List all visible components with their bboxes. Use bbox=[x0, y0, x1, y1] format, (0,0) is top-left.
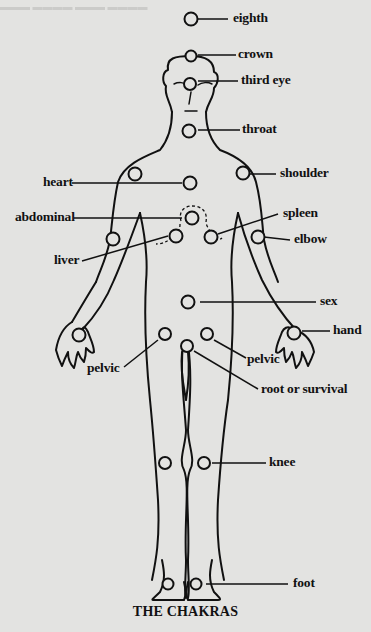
label-knee: knee bbox=[269, 454, 295, 470]
chakra-knee-left-circle bbox=[159, 457, 171, 469]
label-foot: foot bbox=[293, 575, 315, 591]
chakra-abdominal-circle bbox=[186, 212, 199, 225]
chakra-liver-circle bbox=[170, 230, 183, 243]
chakra-throat-circle bbox=[183, 125, 196, 138]
chakra-foot-circle bbox=[191, 579, 202, 590]
right-waist bbox=[217, 213, 238, 580]
left-waist bbox=[140, 213, 159, 580]
chakra-root-circle bbox=[181, 340, 193, 352]
chakra-knee-circle bbox=[198, 457, 210, 469]
leader-pelvic-left bbox=[124, 340, 158, 367]
chakra-pelvic-right-circle bbox=[201, 328, 213, 340]
figure-caption: THE CHAKRAS bbox=[0, 604, 371, 620]
label-pelvic-left: pelvic bbox=[87, 360, 120, 376]
leader-liver bbox=[82, 236, 168, 261]
chakra-spleen-circle bbox=[205, 231, 218, 244]
label-pelvic-right: pelvic bbox=[247, 351, 280, 367]
label-crown: crown bbox=[238, 46, 273, 62]
label-throat: throat bbox=[242, 121, 277, 137]
leader-pelvic-right bbox=[214, 340, 246, 358]
chakra-heart-left-circle bbox=[129, 168, 142, 181]
chakra-body-diagram bbox=[0, 0, 371, 632]
chakra-elbow-left-circle bbox=[107, 233, 120, 246]
label-spleen: spleen bbox=[283, 205, 318, 221]
chakra-heart-circle bbox=[184, 177, 197, 190]
chakra-hand-circle bbox=[288, 327, 301, 340]
nose bbox=[189, 92, 191, 104]
right-inner-arm bbox=[238, 213, 296, 330]
label-liver: liver bbox=[54, 252, 79, 268]
chakra-third-eye-circle bbox=[184, 78, 196, 90]
label-third-eye: third eye bbox=[241, 72, 291, 88]
label-shoulder: shoulder bbox=[280, 165, 329, 181]
label-heart: heart bbox=[43, 174, 73, 190]
brow-right bbox=[198, 83, 212, 85]
left-outer-arm bbox=[72, 282, 96, 322]
label-hand: hand bbox=[333, 322, 361, 338]
chakra-hand-left-circle bbox=[73, 329, 86, 342]
label-elbow: elbow bbox=[294, 231, 327, 247]
right-torso-outline bbox=[206, 112, 278, 282]
leader-elbow bbox=[264, 237, 290, 240]
chakra-pelvic-left-circle bbox=[159, 328, 171, 340]
left-torso-outline bbox=[96, 112, 172, 282]
book-page: ▬▬▬ ▬▬▬▬ ▬▬▬ ▬▬▬▬ bbox=[0, 0, 371, 632]
chakra-foot-left-circle bbox=[163, 579, 174, 590]
label-eighth: eighth bbox=[233, 10, 268, 26]
leader-spleen bbox=[218, 214, 278, 234]
chakra-sex-circle bbox=[182, 296, 195, 309]
label-sex: sex bbox=[320, 293, 337, 309]
chakra-shoulder-circle bbox=[237, 167, 250, 180]
chakra-elbow-circle bbox=[252, 231, 265, 244]
chakra-crown-circle bbox=[186, 51, 197, 62]
chakra-eighth-circle bbox=[185, 13, 198, 26]
label-abdominal: abdominal bbox=[15, 209, 75, 225]
label-root: root or survival bbox=[261, 381, 347, 397]
